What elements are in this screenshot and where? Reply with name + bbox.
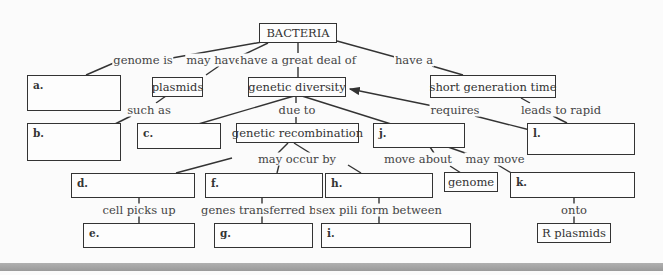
link-have-a-great-deal-of: have a great deal of	[239, 54, 357, 67]
link-genes-transferred-by: genes transferred by	[200, 204, 324, 217]
blank-box-b[interactable]: b.	[27, 123, 121, 161]
link-due-to: due to	[278, 104, 317, 117]
node-short-generation-time: short generation time	[430, 75, 556, 98]
link-requires: requires	[430, 104, 481, 117]
blank-box-k[interactable]: k.	[510, 172, 635, 198]
node-genetic-diversity: genetic diversity	[248, 77, 346, 97]
blank-box-i[interactable]: i.	[321, 223, 471, 248]
node-genetic-recombination: genetic recombination	[236, 123, 359, 143]
node-r-plasmids: R plasmids	[537, 223, 611, 243]
blank-box-a[interactable]: a.	[27, 75, 121, 111]
node-plasmids: plasmids	[152, 77, 203, 97]
node-genome: genome	[444, 172, 498, 192]
link-sex-pili-form-between: sex pili form between	[315, 204, 443, 217]
link-move-about: move about	[383, 153, 453, 166]
blank-box-f[interactable]: f.	[205, 173, 323, 198]
link-may-have: may have	[185, 54, 242, 67]
link-onto: onto	[560, 204, 588, 217]
link-have-a: have a	[394, 54, 434, 67]
blank-box-c[interactable]: c.	[137, 123, 221, 149]
blank-box-e[interactable]: e.	[83, 223, 195, 248]
link-leads-to-rapid: leads to rapid	[520, 104, 602, 117]
link-may-occur-by: may occur by	[257, 153, 337, 166]
bottom-divider-bar	[0, 263, 663, 271]
blank-box-g[interactable]: g.	[214, 223, 313, 248]
node-bacteria: BACTERIA	[259, 23, 337, 43]
blank-box-l[interactable]: l.	[527, 123, 635, 155]
blank-box-h[interactable]: h.	[325, 173, 433, 198]
link-genome-is: genome is	[112, 54, 173, 67]
link-such-as: such as	[126, 104, 172, 117]
link-cell-picks-up: cell picks up	[101, 204, 176, 217]
blank-box-d[interactable]: d.	[71, 173, 195, 198]
link-may-move: may move	[464, 153, 525, 166]
blank-box-j[interactable]: j.	[373, 123, 465, 148]
